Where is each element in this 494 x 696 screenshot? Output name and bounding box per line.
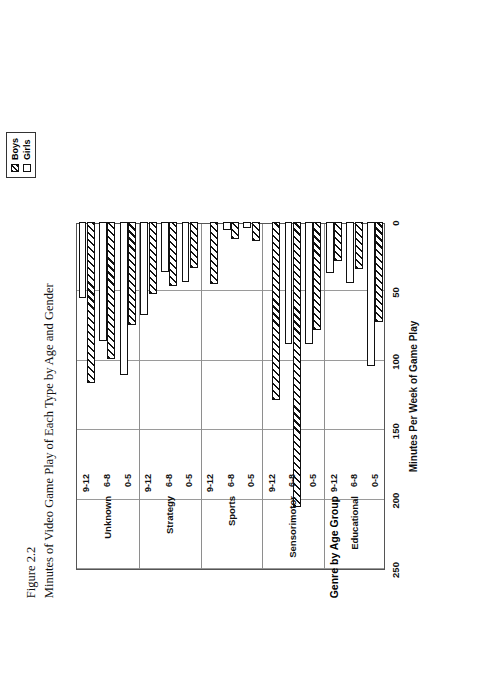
category-tick-sports-0-5: 0-5 xyxy=(246,474,256,487)
category-tick-educational-6-8: 6-8 xyxy=(349,474,359,487)
bar-girls-educational-9-12 xyxy=(326,222,334,273)
genre-group-sensorimotor: Sensorimotor xyxy=(287,496,298,558)
bar-girls-educational-0-5 xyxy=(367,222,375,366)
bar-boys-sensorimotor-0-5 xyxy=(313,222,321,330)
bar-boys-sensorimotor-9-12 xyxy=(272,222,280,400)
bar-girls-strategy-9-12 xyxy=(140,222,148,315)
bar-boys-sensorimotor-6-8 xyxy=(293,222,301,507)
legend-item-boys: Boys xyxy=(10,138,20,172)
category-tick-sensorimotor-9-12: 9-12 xyxy=(267,474,277,492)
legend-swatch-boys-icon xyxy=(11,164,19,172)
legend-item-girls: Girls xyxy=(22,138,32,172)
group-separator xyxy=(201,224,202,569)
bar-girls-unknown-0-5 xyxy=(120,222,128,375)
bar-girls-strategy-6-8 xyxy=(161,222,169,272)
bar-girls-unknown-9-12 xyxy=(79,222,87,298)
category-tick-sensorimotor-6-8: 6-8 xyxy=(287,474,297,487)
genre-group-strategy: Strategy xyxy=(163,496,174,534)
bar-boys-unknown-9-12 xyxy=(87,222,95,383)
value-tick-50: 50 xyxy=(390,287,401,298)
group-separator xyxy=(139,224,140,569)
category-tick-strategy-9-12: 9-12 xyxy=(143,474,153,492)
bar-boys-sports-9-12 xyxy=(210,222,218,284)
bar-boys-sports-0-5 xyxy=(252,222,260,241)
value-axis-title: Minutes Per Week of Game Play xyxy=(408,223,419,570)
group-separator xyxy=(262,224,263,569)
bar-girls-strategy-0-5 xyxy=(182,222,190,282)
bar-girls-sensorimotor-6-8 xyxy=(285,222,293,344)
category-tick-unknown-9-12: 9-12 xyxy=(81,474,91,492)
category-tick-sports-9-12: 9-12 xyxy=(205,474,215,492)
chart-legend: Boys Girls xyxy=(6,132,36,178)
value-tick-200: 200 xyxy=(390,493,401,509)
bar-boys-strategy-0-5 xyxy=(190,222,198,268)
bar-girls-sports-0-5 xyxy=(243,222,251,228)
figure-title: Minutes of Video Game Play of Each Type … xyxy=(40,78,58,598)
bar-boys-educational-6-8 xyxy=(355,222,363,269)
group-separator xyxy=(324,224,325,569)
category-tick-unknown-6-8: 6-8 xyxy=(102,474,112,487)
chart-rotated-wrapper: Boys Girls 0 50 100 150 200 250 Minutes … xyxy=(58,48,436,648)
value-tick-0: 0 xyxy=(390,220,401,225)
category-tick-sensorimotor-0-5: 0-5 xyxy=(308,474,318,487)
bar-girls-unknown-6-8 xyxy=(99,222,107,341)
category-tick-strategy-6-8: 6-8 xyxy=(164,474,174,487)
value-tick-100: 100 xyxy=(390,354,401,370)
legend-swatch-girls-icon xyxy=(23,164,31,172)
value-tick-250: 250 xyxy=(390,562,401,578)
bar-boys-educational-0-5 xyxy=(375,222,383,322)
value-tick-150: 150 xyxy=(390,423,401,439)
genre-group-sports: Sports xyxy=(225,496,236,526)
category-axis-title: Genre by Age Group xyxy=(328,496,340,598)
gridline-150 xyxy=(77,429,384,430)
category-tick-unknown-0-5: 0-5 xyxy=(123,474,133,487)
category-tick-educational-9-12: 9-12 xyxy=(329,474,339,492)
category-tick-educational-0-5: 0-5 xyxy=(370,474,380,487)
bar-girls-sensorimotor-0-5 xyxy=(305,222,313,344)
bar-girls-sports-6-8 xyxy=(223,222,231,230)
bar-boys-strategy-6-8 xyxy=(169,222,177,286)
bar-girls-educational-6-8 xyxy=(346,222,354,283)
bar-boys-educational-9-12 xyxy=(334,222,342,261)
genre-group-unknown: Unknown xyxy=(101,496,112,539)
bar-boys-sports-6-8 xyxy=(231,222,239,239)
bar-boys-unknown-0-5 xyxy=(128,222,136,325)
category-tick-strategy-0-5: 0-5 xyxy=(184,474,194,487)
genre-group-educational: Educational xyxy=(349,496,360,550)
legend-label-girls: Girls xyxy=(22,139,32,160)
bar-chart: Boys Girls 0 50 100 150 200 250 Minutes … xyxy=(58,48,436,648)
legend-label-boys: Boys xyxy=(10,138,20,160)
category-tick-sports-6-8: 6-8 xyxy=(226,474,236,487)
bar-boys-unknown-6-8 xyxy=(107,222,115,359)
bar-boys-strategy-9-12 xyxy=(149,222,157,294)
